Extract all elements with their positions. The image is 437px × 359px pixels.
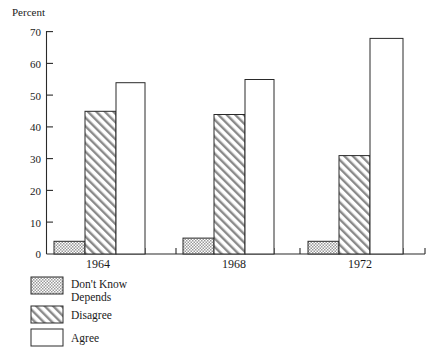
bar-group-1972	[308, 38, 403, 254]
bar-group-1964	[54, 83, 145, 254]
bar-1968-disagree	[214, 115, 245, 255]
y-tick-label-10: 10	[30, 217, 42, 229]
y-tick-label-30: 30	[30, 153, 42, 165]
y-tick-label-0: 0	[36, 248, 42, 260]
x-tick-label-1968: 1968	[222, 257, 246, 271]
bar-1964-disagree	[85, 111, 116, 254]
bar-1964-dont-know	[54, 241, 85, 254]
legend-label-disagree: Disagree	[71, 309, 112, 322]
chart-page: Percent 70 60 50 40 30 20 10 0	[0, 0, 437, 359]
y-tick-label-60: 60	[30, 58, 42, 70]
y-tick-label-20: 20	[30, 185, 42, 197]
y-tick-label-50: 50	[30, 90, 42, 102]
bar-1972-dont-know	[308, 241, 339, 254]
legend-label-agree: Agree	[71, 332, 99, 345]
legend-item-disagree: Disagree	[31, 306, 112, 323]
legend-item-dont-know: Don't Know Depends	[31, 277, 128, 304]
y-axis-title: Percent	[12, 6, 45, 18]
legend-swatch-agree	[31, 329, 63, 346]
y-tick-marks	[47, 32, 54, 223]
bar-1968-dont-know	[183, 238, 214, 254]
legend-item-agree: Agree	[31, 329, 99, 346]
chart-legend: Don't Know Depends Disagree Agree	[31, 277, 128, 346]
x-tick-labels: 1964 1968 1972	[86, 257, 372, 271]
bar-group-1968	[183, 80, 274, 255]
legend-label-dont-know-line1: Don't Know	[71, 278, 128, 290]
bar-1972-disagree	[339, 156, 370, 254]
y-tick-label-40: 40	[30, 121, 42, 133]
bar-chart: Percent 70 60 50 40 30 20 10 0	[0, 0, 437, 359]
y-tick-labels: 70 60 50 40 30 20 10 0	[30, 26, 42, 260]
legend-swatch-disagree	[31, 306, 63, 323]
x-tick-label-1964: 1964	[86, 257, 110, 271]
bar-1972-agree	[370, 38, 403, 254]
legend-label-dont-know-line2: Depends	[71, 291, 112, 304]
bar-1968-agree	[245, 80, 274, 255]
legend-swatch-dont-know	[31, 277, 63, 294]
bar-1964-agree	[116, 83, 145, 254]
y-tick-label-70: 70	[30, 26, 42, 38]
x-tick-label-1972: 1972	[348, 257, 372, 271]
